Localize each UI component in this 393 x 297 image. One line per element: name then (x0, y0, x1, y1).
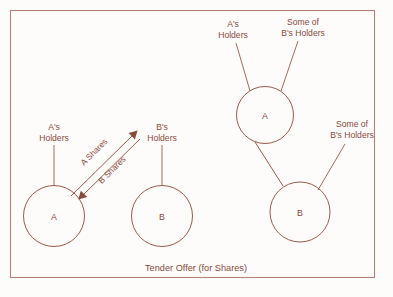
diagram-frame (11, 11, 375, 278)
right-some-b-holders-right-line2: B's Holders (330, 130, 374, 140)
right-some-b-holders-top-connector (281, 41, 298, 91)
left-a-holders-line2: Holders (39, 133, 69, 143)
left-b-holders-line1: B's (156, 122, 168, 132)
diagram-caption: Tender Offer (for Shares) (145, 263, 247, 273)
right-some-b-holders-top-line2: B's Holders (281, 28, 325, 38)
left-a-holders-line1: A's (48, 122, 60, 132)
right-node-a-label: A (262, 111, 268, 121)
left-b-holders-line2: Holders (147, 133, 177, 143)
tender-offer-diagram: A's Holders B's Holders A B A Shares B S… (0, 0, 393, 297)
left-node-b-label: B (159, 212, 165, 222)
right-some-b-holders-right-line1: Some of (336, 119, 369, 129)
right-node-b-label: B (297, 208, 303, 218)
right-a-holders-connector (236, 43, 250, 91)
right-some-b-holders-right-connector (318, 144, 345, 190)
right-a-to-b-connector (255, 142, 283, 186)
right-a-holders-line2: Holders (218, 30, 248, 40)
left-node-a-label: A (51, 212, 57, 222)
right-a-holders-line1: A's (227, 19, 239, 29)
left-b-shares-label: B Shares (96, 154, 127, 185)
right-some-b-holders-top-line1: Some of (287, 17, 320, 27)
